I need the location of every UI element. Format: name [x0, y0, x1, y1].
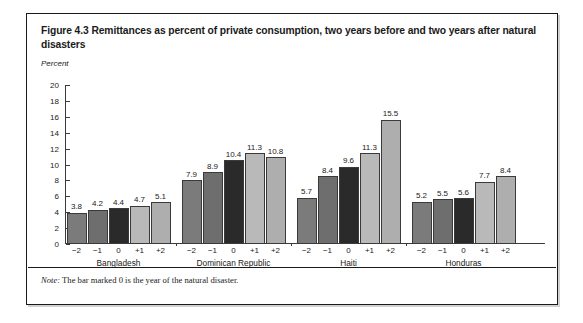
x-axis-tick-label: −2	[417, 246, 426, 255]
x-axis-tick-label: −1	[208, 246, 217, 255]
bar-value-label: 4.4	[113, 198, 124, 207]
x-axis-tick-label: −1	[438, 246, 447, 255]
bar-slot: 11.3+1	[245, 84, 265, 243]
x-axis-tick-label: +2	[271, 246, 280, 255]
bar[interactable]	[245, 153, 265, 243]
bar-value-label: 8.4	[500, 166, 511, 175]
bar[interactable]	[381, 120, 401, 243]
bar[interactable]	[109, 208, 129, 243]
bar-slot: 5.1+2	[151, 84, 171, 243]
x-axis-line	[65, 243, 545, 244]
bar-group-honduras: 5.2−25.5−15.607.7+18.4+2Honduras	[411, 84, 516, 243]
bar[interactable]	[496, 176, 516, 243]
y-axis-tick-label: 12	[50, 144, 59, 153]
x-axis-tick-label: +2	[501, 246, 510, 255]
bar[interactable]	[475, 182, 495, 243]
bar-slot: 10.40	[224, 84, 244, 243]
bar-value-label: 9.6	[343, 156, 354, 165]
bar[interactable]	[88, 210, 108, 243]
bar-groups: 3.8−24.2−14.404.7+15.1+2Bangladesh7.9−28…	[66, 84, 545, 243]
group-gap	[286, 84, 296, 243]
bar-value-label: 4.2	[92, 199, 103, 208]
group-separator-tick	[406, 243, 407, 246]
x-axis-tick-label: −2	[187, 246, 196, 255]
bar[interactable]	[67, 213, 87, 243]
bar[interactable]	[182, 180, 202, 243]
y-axis-tick-label: 20	[50, 81, 59, 90]
bar[interactable]	[454, 198, 474, 243]
chart-plot-area: 02468101214161820 3.8−24.2−14.404.7+15.1…	[65, 85, 545, 244]
bar[interactable]	[297, 198, 317, 243]
bar-slot: 4.7+1	[130, 84, 150, 243]
bar-value-label: 15.5	[383, 109, 399, 118]
x-axis-tick-label: +1	[365, 246, 374, 255]
bar[interactable]	[224, 160, 244, 243]
bar-slot: 11.3+1	[360, 84, 380, 243]
note-text: The bar marked 0 is the year of the natu…	[60, 275, 238, 285]
x-axis-tick-label: −1	[93, 246, 102, 255]
bar[interactable]	[412, 202, 432, 243]
figure-container: Figure 4.3 Remittances as percent of pri…	[26, 13, 558, 305]
x-axis-tick-label: −2	[72, 246, 81, 255]
bar[interactable]	[130, 206, 150, 243]
bar-slot: 7.9−2	[182, 84, 202, 243]
figure-title: Figure 4.3 Remittances as percent of pri…	[41, 24, 545, 52]
y-axis-tick-label: 14	[50, 128, 59, 137]
bar-slot: 5.2−2	[412, 84, 432, 243]
bar-value-label: 11.3	[247, 143, 262, 152]
x-axis-tick-label: 0	[461, 246, 465, 255]
bar-value-label: 5.5	[437, 189, 448, 198]
bar-slot: 3.8−2	[67, 84, 87, 243]
bar-value-label: 5.1	[155, 192, 166, 201]
bar[interactable]	[360, 153, 380, 243]
bar[interactable]	[433, 199, 453, 243]
bar[interactable]	[151, 202, 171, 243]
bar-value-label: 7.7	[479, 171, 490, 180]
bar-slot: 5.5−1	[433, 84, 453, 243]
bar-slot: 4.40	[109, 84, 129, 243]
bar-group-haiti: 5.7−28.4−19.6011.3+115.5+2Haiti	[296, 84, 401, 243]
group-gap	[171, 84, 181, 243]
bar-slot: 7.7+1	[475, 84, 495, 243]
bar-slot: 8.4+2	[496, 84, 516, 243]
bar-value-label: 8.9	[207, 162, 218, 171]
group-separator-tick	[176, 243, 177, 246]
bar-value-label: 10.4	[226, 150, 242, 159]
bar-value-label: 8.4	[322, 166, 333, 175]
bar-value-label: 5.7	[301, 187, 312, 196]
bar-value-label: 5.2	[416, 191, 427, 200]
bar[interactable]	[203, 172, 223, 243]
x-axis-tick-label: 0	[346, 246, 350, 255]
y-axis-tick-label: 0	[55, 240, 59, 249]
y-axis-tick-mark	[66, 244, 70, 245]
bar[interactable]	[318, 176, 338, 243]
bar-slot: 10.8+2	[266, 84, 286, 243]
bar-value-label: 4.7	[134, 195, 145, 204]
x-axis-tick-label: 0	[116, 246, 120, 255]
x-axis-tick-label: +2	[386, 246, 395, 255]
bar-value-label: 7.9	[186, 170, 197, 179]
y-axis-tick-label: 6	[55, 192, 59, 201]
bar-value-label: 11.3	[362, 143, 377, 152]
x-axis-tick-label: −1	[323, 246, 332, 255]
y-axis-unit-label: Percent	[41, 59, 69, 68]
x-axis-tick-label: −2	[302, 246, 311, 255]
bar-slot: 9.60	[339, 84, 359, 243]
bar-slot: 5.60	[454, 84, 474, 243]
x-axis-tick-label: +2	[156, 246, 165, 255]
group-gap	[401, 84, 411, 243]
bar-value-label: 10.8	[268, 147, 284, 156]
x-axis-tick-label: +1	[250, 246, 259, 255]
x-axis-tick-label: 0	[231, 246, 235, 255]
note-lead: Note:	[41, 275, 60, 285]
bar[interactable]	[266, 157, 286, 243]
bar-slot: 15.5+2	[381, 84, 401, 243]
y-axis-tick-label: 4	[55, 208, 59, 217]
bar-slot: 8.9−1	[203, 84, 223, 243]
bar[interactable]	[339, 167, 359, 243]
bar-slot: 4.2−1	[88, 84, 108, 243]
y-axis-tick-label: 2	[55, 224, 59, 233]
y-axis-tick-label: 16	[50, 112, 59, 121]
y-axis-tick-label: 10	[50, 160, 59, 169]
bar-slot: 8.4−1	[318, 84, 338, 243]
